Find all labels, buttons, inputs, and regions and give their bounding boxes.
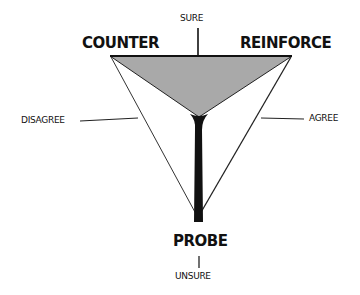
probe-label: PROBE [173,233,227,250]
counter-label: COUNTER [82,35,159,52]
sure-label: SURE [180,14,203,23]
disagree-label: DISAGREE [21,116,65,125]
disagree-axis-line [80,118,138,121]
response-triangle-diagram: COUNTER REINFORCE PROBE SURE DISAGREE AG… [0,0,360,295]
unsure-label: UNSURE [175,272,211,281]
shaded-region [110,56,292,117]
agree-label: AGREE [309,114,338,123]
agree-axis-line [261,118,304,119]
reinforce-label: REINFORCE [240,35,331,52]
